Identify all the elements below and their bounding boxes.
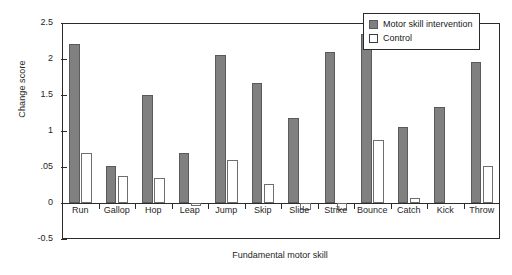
x-category-label-skip: Skip xyxy=(245,205,282,215)
x-category-label-bounce: Bounce xyxy=(354,205,391,215)
y-tick-label-5: 0 xyxy=(0,197,53,207)
legend-swatch-control xyxy=(369,34,378,43)
x-category-label-slide: Slide xyxy=(281,205,318,215)
x-category-label-throw: Throw xyxy=(464,205,501,215)
x-category-label-jump: Jump xyxy=(208,205,245,215)
chart-legend: Motor skill intervention Control xyxy=(363,13,480,50)
legend-label-control: Control xyxy=(383,33,412,44)
y-tick-label-2: 1.5 xyxy=(0,89,53,99)
y-tick-label-4: .05 xyxy=(0,161,53,171)
x-category-label-leap: Leap xyxy=(172,205,209,215)
x-axis-title: Fundamental motor skill xyxy=(60,250,500,260)
x-category-label-strike: Strike xyxy=(318,205,355,215)
x-category-label-run: Run xyxy=(62,205,99,215)
legend-label-intervention: Motor skill intervention xyxy=(383,19,473,30)
x-category-label-catch: Catch xyxy=(391,205,428,215)
x-category-label-kick: Kick xyxy=(427,205,464,215)
legend-swatch-intervention xyxy=(369,20,378,29)
y-tick-label-3: 1 xyxy=(0,125,53,135)
y-tick-label-1: 2 xyxy=(0,53,53,63)
x-axis-category-labels: RunGallopHopLeapJumpSkipSlideStrikeBounc… xyxy=(62,205,500,227)
y-tick-label-0: 2.5 xyxy=(0,17,53,27)
y-tick-label-6: -0.5 xyxy=(0,233,53,243)
legend-item-intervention: Motor skill intervention xyxy=(369,18,473,31)
legend-item-control: Control xyxy=(369,32,473,45)
x-category-label-hop: Hop xyxy=(135,205,172,215)
chart-figure: Change score 2.521.51.050-0.5 RunGallopH… xyxy=(0,0,512,275)
x-category-label-gallop: Gallop xyxy=(99,205,136,215)
